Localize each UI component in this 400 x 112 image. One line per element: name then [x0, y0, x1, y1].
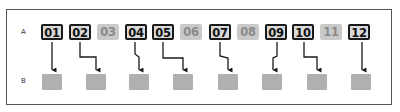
arrow-07-to-b5 — [220, 42, 228, 70]
arrow-02-to-b2 — [80, 42, 96, 70]
arrow-05-to-b4 — [163, 42, 183, 70]
mapping-arrows — [0, 0, 400, 112]
arrow-04-to-b3 — [135, 42, 139, 70]
arrow-10-to-b7 — [304, 42, 317, 70]
arrow-09-to-b6 — [273, 42, 277, 70]
